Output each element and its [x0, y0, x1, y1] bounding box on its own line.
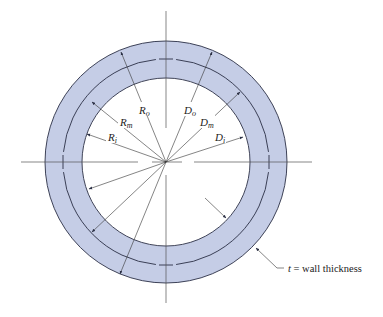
label-ro: Ro	[137, 102, 151, 118]
label-di: Di	[213, 129, 226, 145]
label-ri: Ri	[106, 129, 119, 145]
wall-thickness-label: t = wall thickness	[288, 263, 362, 274]
label-rm: Rm	[118, 114, 135, 130]
label-dm: Dm	[198, 114, 215, 130]
label-do: Do	[182, 102, 196, 118]
pipe-cross-section-diagram: Ro Rm Ri Do Dm Di t = wall thickness	[0, 0, 383, 317]
